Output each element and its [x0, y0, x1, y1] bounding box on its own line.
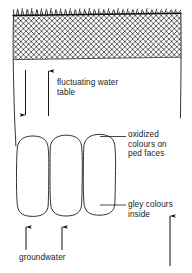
label-oxidized-colours: oxidized colours on ped faces	[128, 130, 167, 159]
label-gley-colours: gley colours inside	[128, 200, 173, 219]
label-fluctuating-water-table: fluctuating water table	[57, 78, 118, 97]
ped-shape	[50, 135, 82, 216]
soil-profile-diagram: fluctuating water table oxidized colours…	[0, 0, 192, 273]
ped-shape	[16, 136, 48, 216]
cross-hatched-horizon	[10, 10, 185, 62]
water-table-arrows	[26, 70, 49, 116]
ped-shape	[83, 134, 115, 215]
ped-group	[16, 134, 115, 216]
label-groundwater: groundwater	[19, 253, 66, 263]
leader-lines	[100, 137, 126, 206]
